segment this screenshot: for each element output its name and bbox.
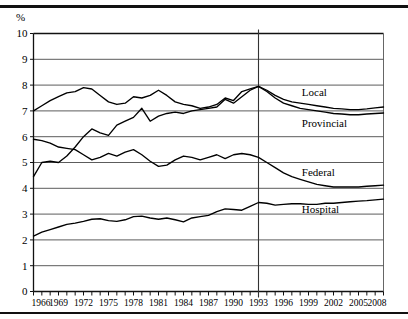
y-tick-label-8: 8 <box>22 79 28 91</box>
x-tick-label-2008: 2008 <box>368 298 387 308</box>
x-tick-label-1990: 1990 <box>224 298 243 308</box>
y-tick-label-5: 5 <box>22 156 28 168</box>
x-tick-label-1966: 1966 <box>32 298 51 308</box>
y-tick-label-1: 1 <box>22 260 28 272</box>
y-tick-label-10: 10 <box>17 27 29 39</box>
x-tick-label-1999: 1999 <box>299 298 318 308</box>
series-label-federal: Federal <box>302 166 335 178</box>
y-tick-label-2: 2 <box>22 234 28 246</box>
chart-figure: % 01234567891019661969197219751978198119… <box>0 0 408 319</box>
y-tick-label-6: 6 <box>22 131 28 143</box>
x-tick-label-1972: 1972 <box>74 298 93 308</box>
x-tick-label-1975: 1975 <box>99 298 118 308</box>
x-tick-label-1978: 1978 <box>124 298 143 308</box>
x-tick-label-2002: 2002 <box>324 298 343 308</box>
x-tick-label-2005: 2005 <box>349 298 368 308</box>
y-tick-label-3: 3 <box>22 208 28 220</box>
x-tick-label-1987: 1987 <box>199 298 218 308</box>
y-tick-label-9: 9 <box>22 53 28 65</box>
x-tick-label-1996: 1996 <box>274 298 293 308</box>
y-tick-label-7: 7 <box>22 105 28 117</box>
x-tick-label-1993: 1993 <box>249 298 268 308</box>
x-tick-label-1969: 1969 <box>49 298 68 308</box>
y-tick-label-4: 4 <box>22 182 28 194</box>
series-line-local <box>34 86 384 111</box>
series-line-provincial <box>34 86 384 176</box>
series-label-local: Local <box>302 86 327 98</box>
series-label-provincial: Provincial <box>302 117 347 129</box>
series-label-hospital: Hospital <box>302 203 339 215</box>
series-line-federal <box>34 139 384 187</box>
plot-area: 0123456789101966196919721975197819811984… <box>0 0 408 319</box>
line-chart-svg: 0123456789101966196919721975197819811984… <box>0 0 408 319</box>
x-tick-label-1981: 1981 <box>149 298 168 308</box>
x-tick-label-1984: 1984 <box>174 298 193 308</box>
y-tick-label-0: 0 <box>22 285 28 297</box>
